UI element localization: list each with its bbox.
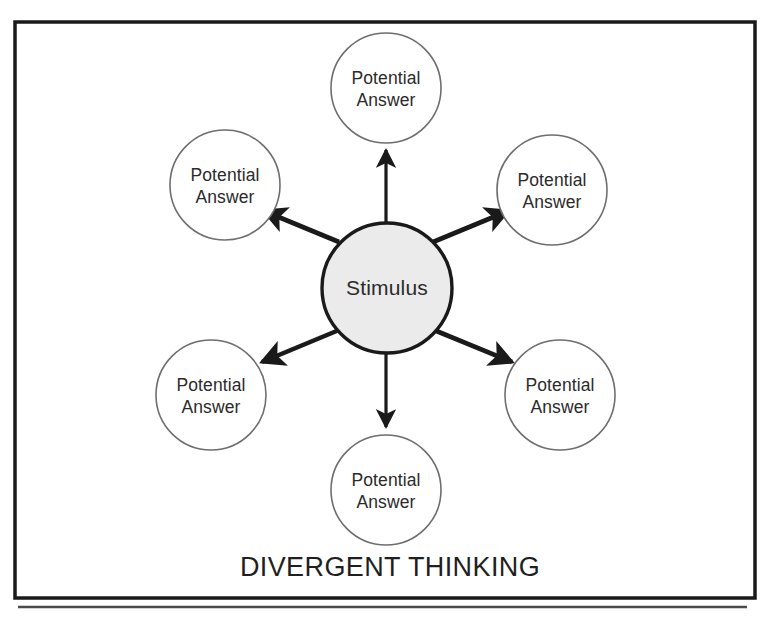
node-label-line1: Potential — [176, 375, 245, 395]
divergent-thinking-figure: Potential Answer Potential Answer Potent… — [0, 0, 775, 620]
node-circle — [170, 130, 280, 240]
node-label-line2: Answer — [523, 192, 582, 212]
peripheral-node-top: Potential Answer — [331, 33, 441, 143]
node-circle — [331, 435, 441, 545]
node-label-line1: Potential — [351, 470, 420, 490]
node-label-line2: Answer — [357, 90, 416, 110]
node-circle — [331, 33, 441, 143]
diagram-canvas: Potential Answer Potential Answer Potent… — [0, 0, 775, 620]
center-node-label: Stimulus — [346, 276, 428, 299]
center-node-stimulus: Stimulus — [322, 223, 452, 353]
peripheral-node-bottom-left: Potential Answer — [156, 340, 266, 450]
node-circle — [156, 340, 266, 450]
node-circle — [497, 135, 607, 245]
node-label-line2: Answer — [357, 492, 416, 512]
figure-caption: DIVERGENT THINKING — [240, 552, 540, 582]
arrow-to-top-right-node — [433, 211, 508, 242]
node-label-line1: Potential — [190, 165, 259, 185]
node-label-line1: Potential — [525, 375, 594, 395]
node-circle — [505, 340, 615, 450]
arrow-to-bottom-left-node — [262, 330, 339, 362]
peripheral-node-bottom: Potential Answer — [331, 435, 441, 545]
node-label-line1: Potential — [517, 170, 586, 190]
peripheral-node-bottom-right: Potential Answer — [505, 340, 615, 450]
node-label-line2: Answer — [531, 397, 590, 417]
peripheral-node-top-left: Potential Answer — [170, 130, 280, 240]
arrow-to-top-left-node — [264, 211, 339, 242]
peripheral-node-top-right: Potential Answer — [497, 135, 607, 245]
node-label-line1: Potential — [351, 68, 420, 88]
arrow-to-bottom-right-node — [434, 330, 512, 362]
node-label-line2: Answer — [196, 187, 255, 207]
node-label-line2: Answer — [182, 397, 241, 417]
